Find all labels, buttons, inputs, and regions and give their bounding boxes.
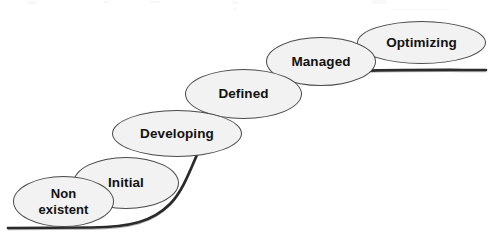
maturity-model-diagram: Non existent Initial Developing Defined … [0, 0, 493, 235]
stage-label-optimizing: Optimizing [380, 35, 463, 51]
stage-bubble-developing[interactable]: Developing [112, 110, 242, 157]
stage-label-managed: Managed [285, 54, 356, 70]
stage-label-defined: Defined [212, 86, 274, 102]
stage-label-initial: Initial [102, 175, 150, 191]
stage-bubble-optimizing[interactable]: Optimizing [357, 21, 486, 64]
stage-label-developing: Developing [134, 126, 220, 142]
stage-label-non-existent: Non existent [33, 186, 95, 217]
stage-bubble-non-existent[interactable]: Non existent [13, 176, 114, 227]
